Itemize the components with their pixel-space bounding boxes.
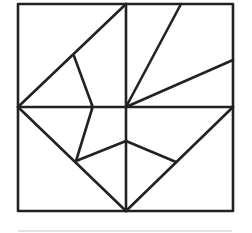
upper-left-inner-segment bbox=[74, 56, 92, 105]
center-to-lower-right-segment bbox=[126, 141, 176, 162]
segments-group bbox=[18, 4, 233, 211]
lower-left-inner-segment bbox=[76, 109, 92, 161]
geometric-dissection-diagram bbox=[0, 0, 252, 233]
upper-left-diagonal bbox=[18, 4, 126, 107]
lower-right-diagonal bbox=[126, 107, 233, 211]
lower-left-to-center-segment bbox=[76, 141, 126, 161]
upper-right-steep-ray bbox=[126, 4, 181, 107]
lower-left-diagonal bbox=[18, 107, 126, 211]
upper-right-shallow-ray bbox=[126, 60, 233, 107]
